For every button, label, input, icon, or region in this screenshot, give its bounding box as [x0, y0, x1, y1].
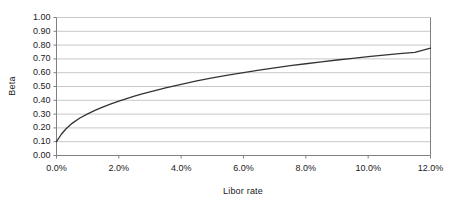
- x-tick-label: 12.0%: [401, 164, 460, 173]
- x-tick-label: 4.0%: [151, 164, 211, 173]
- x-axis-tick-labels: 0.0%2.0%4.0%6.0%8.0%10.0%12.0%: [0, 0, 460, 210]
- x-axis-title: Libor rate: [56, 186, 430, 196]
- x-tick-label: 6.0%: [214, 164, 274, 173]
- x-tick-label: 0.0%: [27, 164, 87, 173]
- x-tick-label: 8.0%: [276, 164, 336, 173]
- x-tick-label: 10.0%: [338, 164, 398, 173]
- chart-container: Beta 0.000.100.200.300.400.500.600.700.8…: [0, 0, 460, 210]
- x-tick-label: 2.0%: [89, 164, 149, 173]
